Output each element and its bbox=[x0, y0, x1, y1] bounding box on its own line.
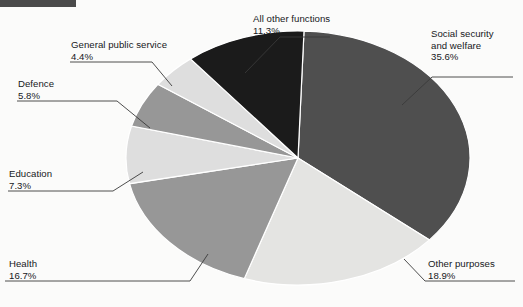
pie-label-other-purposes-value: 18.9% bbox=[428, 270, 495, 282]
pie-label-health-name: Health bbox=[9, 258, 37, 270]
pie-label-education-name: Education bbox=[9, 168, 52, 180]
pie-label-social-security-and-welfare: Social security and welfare 35.6% bbox=[431, 28, 494, 63]
pie-label-education: Education 7.3% bbox=[9, 168, 52, 191]
pie-slices bbox=[126, 31, 470, 285]
pie-label-defence: Defence 5.8% bbox=[18, 78, 54, 101]
pie-label-general-public-service-name: General public service bbox=[71, 39, 167, 51]
pie-label-health: Health 16.7% bbox=[9, 258, 37, 281]
pie-label-social-security-value: 35.6% bbox=[431, 51, 494, 63]
pie-label-all-other-functions-name: All other functions bbox=[253, 13, 330, 25]
pie-label-education-value: 7.3% bbox=[9, 180, 52, 192]
pie-label-all-other-functions: All other functions 11.3% bbox=[253, 13, 330, 36]
pie-label-social-security-name-line1: Social security bbox=[431, 28, 494, 40]
pie-label-all-other-functions-value: 11.3% bbox=[253, 25, 330, 37]
pie-label-defence-name: Defence bbox=[18, 78, 54, 90]
leader-line-general-public-service bbox=[70, 62, 172, 86]
pie-label-other-purposes: Other purposes 18.9% bbox=[428, 258, 495, 281]
pie-label-social-security-name-line2: and welfare bbox=[431, 40, 494, 52]
pie-label-other-purposes-name: Other purposes bbox=[428, 258, 495, 270]
pie-label-health-value: 16.7% bbox=[9, 270, 37, 282]
pie-label-general-public-service-value: 4.4% bbox=[71, 51, 167, 63]
leader-line-defence bbox=[17, 101, 150, 128]
pie-label-defence-value: 5.8% bbox=[18, 90, 54, 102]
chart-page: All other functions 11.3% Social securit… bbox=[0, 0, 523, 307]
pie-label-general-public-service: General public service 4.4% bbox=[71, 39, 167, 62]
